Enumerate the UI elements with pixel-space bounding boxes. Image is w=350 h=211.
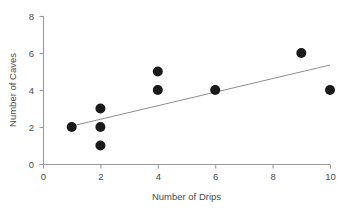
chart-canvas: 0 2 4 6 8 0 2 4 6 8 10 Number of Drips N… <box>0 0 350 211</box>
y-axis-title: Number of Caves <box>7 53 18 127</box>
data-point <box>95 122 105 132</box>
x-tick-label: 4 <box>156 171 161 182</box>
x-tick-label: 2 <box>98 171 103 182</box>
data-point <box>153 67 163 77</box>
y-tick-label: 2 <box>29 122 34 133</box>
x-tick-label: 8 <box>270 171 275 182</box>
x-tick-label: 10 <box>325 171 336 182</box>
y-tick-label: 6 <box>29 48 34 59</box>
y-tick-label: 8 <box>29 11 34 22</box>
data-point <box>95 141 105 151</box>
data-point <box>95 104 105 114</box>
x-axis-title: Number of Drips <box>152 191 221 202</box>
scatter-plot-figure: 0 2 4 6 8 0 2 4 6 8 10 Number of Drips N… <box>0 0 350 211</box>
data-point <box>325 85 335 95</box>
y-tick-label: 0 <box>29 159 34 170</box>
data-point <box>296 48 306 58</box>
data-point <box>210 85 220 95</box>
x-tick-label: 0 <box>41 171 46 182</box>
y-tick-label: 4 <box>29 85 34 96</box>
x-tick-label: 6 <box>213 171 218 182</box>
data-point <box>67 122 77 132</box>
chart-background <box>0 0 350 211</box>
data-point <box>153 85 163 95</box>
